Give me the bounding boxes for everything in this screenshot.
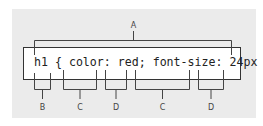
bracket-c-1 bbox=[64, 70, 97, 90]
label-d-1: D bbox=[113, 104, 119, 112]
bracket-d-2 bbox=[199, 70, 224, 90]
bracket-b bbox=[35, 73, 51, 90]
bracket-d-1 bbox=[106, 70, 127, 90]
label-c-2: C bbox=[160, 104, 166, 112]
bracket-c-2 bbox=[136, 70, 190, 90]
label-b: B bbox=[40, 104, 46, 112]
label-d-2: D bbox=[208, 104, 214, 112]
label-a: A bbox=[131, 22, 136, 30]
bracket-a bbox=[35, 41, 232, 56]
label-c-1: C bbox=[77, 104, 83, 112]
